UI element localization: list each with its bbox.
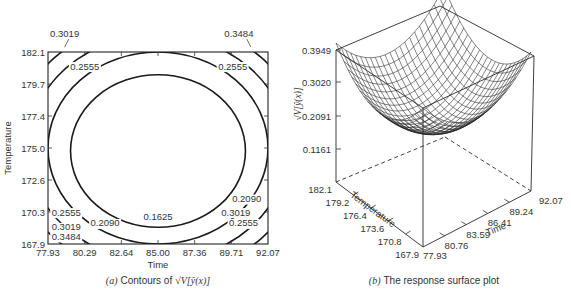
x-tick-label: 82.64 xyxy=(109,247,133,258)
z-axis-label: √V[ŷ(x)] xyxy=(293,87,304,120)
z-tick-label: 0.2091 xyxy=(302,111,331,122)
caption-b-text: The response surface plot xyxy=(384,275,500,286)
time-tick-label: 89.24 xyxy=(509,206,533,217)
x-axis-label: Time xyxy=(148,259,169,270)
figure-canvas: 77.9380.2982.6485.0087.3689.7192.07 167.… xyxy=(0,0,571,296)
time-tick-label: 92.07 xyxy=(539,195,563,206)
x-tick-label: 85.00 xyxy=(146,247,170,258)
y-axis-label: Temperature xyxy=(2,121,13,174)
surface-axis-ticks: 0.39490.30200.20910.1161167.9170.8173.61… xyxy=(302,45,563,262)
temperature-tick-label: 170.8 xyxy=(378,236,402,247)
caption-a-text: Contours of xyxy=(121,275,173,286)
y-tick-label: 167.9 xyxy=(21,239,45,250)
caption-b: (b)The response surface plot xyxy=(369,275,500,287)
contour-label: 0.1625 xyxy=(143,211,172,222)
caption-b-prefix: (b) xyxy=(369,275,381,287)
temperature-tick-label: 173.6 xyxy=(360,223,384,234)
contour-label: 0.2555 xyxy=(52,207,81,218)
contour-label: 0.2555 xyxy=(218,61,247,72)
y-tick-label: 172.6 xyxy=(21,175,45,186)
caption-a-prefix: (a) xyxy=(106,275,118,287)
y-tick-label: 170.3 xyxy=(21,207,45,218)
z-tick-label: 0.3949 xyxy=(302,45,331,56)
surface-plot: 0.39490.30200.20910.1161167.9170.8173.61… xyxy=(293,0,563,287)
contour-label: 0.2090 xyxy=(91,217,120,228)
temperature-tick-label: 182.1 xyxy=(308,184,332,195)
z-tick-label: 0.3020 xyxy=(302,77,331,88)
y-tick-label: 179.7 xyxy=(21,79,45,90)
z-tick-label: 0.1161 xyxy=(303,144,331,155)
contour-label: 0.2555 xyxy=(229,217,258,228)
temperature-tick-label: 176.4 xyxy=(343,210,367,221)
y-tick-label: 177.4 xyxy=(21,111,45,122)
contour-label: 0.3019 xyxy=(50,28,79,39)
y-tick-label: 182.1 xyxy=(21,47,45,58)
contour-plot: 77.9380.2982.6485.0087.3689.7192.07 167.… xyxy=(0,7,320,289)
x-tick-label: 92.07 xyxy=(256,247,280,258)
x-tick-label: 89.71 xyxy=(219,247,243,258)
contour-label: 0.2090 xyxy=(232,193,261,204)
contour-label: 0.3484 xyxy=(52,231,81,242)
caption-a-math: √V[ŷ(x)] xyxy=(175,275,210,287)
caption-a: (a)Contours of√V[ŷ(x)] xyxy=(106,275,210,287)
time-tick-label: 77.93 xyxy=(423,250,447,261)
x-tick-label: 87.36 xyxy=(183,247,207,258)
time-tick-label: 80.76 xyxy=(445,240,469,251)
temperature-tick-label: 179.2 xyxy=(326,197,350,208)
contour-label: 0.3484 xyxy=(224,28,253,39)
x-tick-label: 80.29 xyxy=(73,247,97,258)
y-tick-label: 175.0 xyxy=(21,143,45,154)
contour-labels: 0.30190.25550.34840.25550.16250.20900.25… xyxy=(49,28,263,242)
temperature-tick-label: 167.9 xyxy=(395,249,419,260)
contour-label: 0.2555 xyxy=(70,61,99,72)
surface-mesh xyxy=(336,0,531,135)
contour-label: 0.3019 xyxy=(221,207,250,218)
